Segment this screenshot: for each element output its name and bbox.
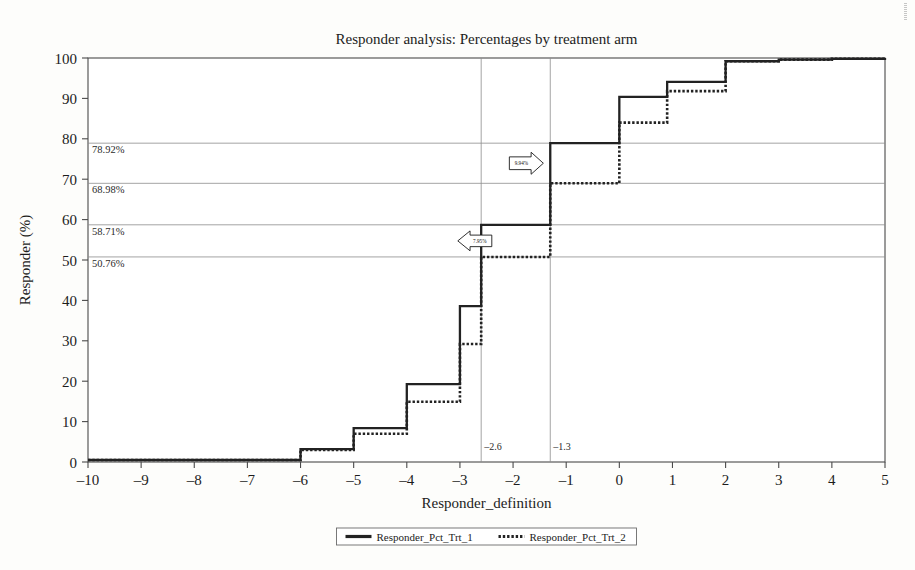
y-reference-label: 68.98% [92, 184, 125, 195]
y-tick-label: 60 [62, 212, 77, 228]
legend-label: Responder_Pct_Trt_2 [530, 531, 626, 543]
chart-title: Responder analysis: Percentages by treat… [336, 31, 638, 47]
x-tick-label: –3 [451, 472, 467, 488]
y-axis-title: Responder (%) [17, 215, 34, 305]
x-reference-label: –2.6 [483, 441, 502, 452]
y-tick-label: 40 [62, 293, 77, 309]
x-reference-label: –1.3 [552, 441, 571, 452]
y-tick-label: 50 [62, 253, 77, 269]
x-tick-label: –10 [76, 472, 100, 488]
x-tick-label: –4 [398, 472, 415, 488]
x-tick-label: 3 [775, 472, 783, 488]
x-tick-label: –5 [345, 472, 361, 488]
plot-area [88, 58, 885, 462]
x-tick-label: 5 [881, 472, 889, 488]
x-tick-label: –6 [292, 472, 309, 488]
x-tick-label: –7 [239, 472, 256, 488]
x-tick-label: –9 [133, 472, 149, 488]
y-tick-label: 80 [62, 131, 77, 147]
y-reference-label: 78.92% [92, 144, 125, 155]
y-tick-label: 70 [62, 172, 77, 188]
x-axis-title: Responder_definition [422, 495, 552, 511]
scan-artifact [904, 2, 907, 20]
y-tick-label: 20 [62, 374, 77, 390]
y-reference-label: 50.76% [92, 258, 125, 269]
y-tick-label: 90 [62, 91, 77, 107]
y-tick-label: 30 [62, 333, 77, 349]
annotation-label: 9.94% [515, 160, 529, 166]
y-tick-label: 100 [55, 51, 78, 67]
x-tick-label: –2 [505, 472, 521, 488]
x-tick-label: –8 [186, 472, 202, 488]
y-reference-label: 58.71% [92, 226, 125, 237]
x-tick-label: 2 [722, 472, 730, 488]
annotation-label: 7.95% [473, 238, 487, 244]
legend-label: Responder_Pct_Trt_1 [377, 531, 473, 543]
y-tick-label: 10 [62, 414, 77, 430]
x-tick-label: –1 [558, 472, 574, 488]
x-tick-label: 1 [669, 472, 677, 488]
x-tick-label: 4 [828, 472, 836, 488]
x-tick-label: 0 [616, 472, 624, 488]
y-tick-label: 0 [70, 455, 78, 471]
responder-analysis-chart: Responder analysis: Percentages by treat… [0, 0, 915, 570]
